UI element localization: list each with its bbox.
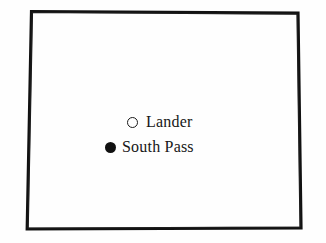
map-figure: Lander South Pass [0,0,326,243]
map-marker-label-south-pass: South Pass [122,139,194,155]
map-marker-label-lander: Lander [146,114,193,130]
filled-circle-marker-icon [105,142,116,153]
open-circle-marker-icon [127,117,138,128]
map-marker-lander[interactable]: Lander [127,114,193,130]
map-marker-south-pass[interactable]: South Pass [105,139,194,155]
